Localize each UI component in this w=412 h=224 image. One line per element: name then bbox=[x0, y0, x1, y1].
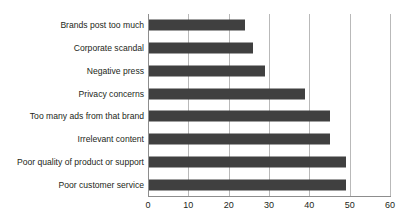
category-label: Poor customer service bbox=[0, 180, 144, 190]
category-label: Poor quality of product or support bbox=[0, 157, 144, 167]
bar bbox=[148, 134, 330, 145]
bar bbox=[148, 179, 346, 190]
bar-row bbox=[148, 128, 390, 151]
category-label: Negative press bbox=[0, 66, 144, 76]
x-tick-label-10: 10 bbox=[183, 200, 193, 210]
plot-area bbox=[148, 14, 390, 196]
category-label: Too many ads from that brand bbox=[0, 111, 144, 121]
bar-row bbox=[148, 105, 390, 128]
bar-row bbox=[148, 151, 390, 174]
bar-row bbox=[148, 82, 390, 105]
bar-row bbox=[148, 173, 390, 196]
x-axis-line bbox=[148, 196, 391, 197]
category-label: Privacy concerns bbox=[0, 89, 144, 99]
bar bbox=[148, 88, 305, 99]
bar bbox=[148, 156, 346, 167]
gridline-60 bbox=[390, 14, 391, 196]
bar-chart: Brands post too muchCorporate scandalNeg… bbox=[0, 0, 412, 224]
bar-row bbox=[148, 37, 390, 60]
x-tick-label-40: 40 bbox=[304, 200, 314, 210]
bar bbox=[148, 111, 330, 122]
y-axis-line bbox=[148, 14, 149, 197]
x-tick-label-0: 0 bbox=[145, 200, 150, 210]
category-label: Irrelevant content bbox=[0, 134, 144, 144]
x-tick-label-60: 60 bbox=[385, 200, 395, 210]
bar bbox=[148, 20, 245, 31]
x-tick-label-20: 20 bbox=[224, 200, 234, 210]
x-tick-label-30: 30 bbox=[264, 200, 274, 210]
bar-row bbox=[148, 14, 390, 37]
x-tick-label-50: 50 bbox=[345, 200, 355, 210]
bar-row bbox=[148, 60, 390, 83]
bar bbox=[148, 65, 265, 76]
category-label: Corporate scandal bbox=[0, 43, 144, 53]
category-label: Brands post too much bbox=[0, 20, 144, 30]
bar bbox=[148, 43, 253, 54]
